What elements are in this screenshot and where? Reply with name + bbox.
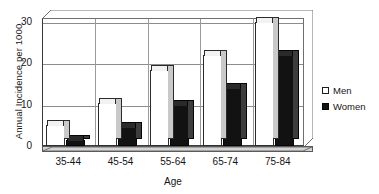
x-axis-title: Age — [42, 176, 304, 187]
y-tick-label: 0 — [10, 141, 32, 151]
bar-group — [147, 18, 199, 146]
bar-side-face — [273, 17, 279, 139]
legend-swatch-women-icon — [322, 103, 329, 110]
bar-top-face — [47, 120, 64, 126]
y-tick-label: 10 — [10, 100, 32, 110]
bar-group — [94, 18, 146, 146]
bar-top-face — [256, 17, 273, 23]
bar-side-face — [64, 120, 70, 139]
legend-label-men: Men — [333, 85, 351, 96]
x-tick-label: 65-74 — [199, 156, 251, 167]
y-tick-label: 20 — [10, 58, 32, 68]
bar-side-face — [116, 98, 122, 139]
bar-side-face — [84, 135, 90, 139]
chart-legend: Men Women — [322, 85, 378, 117]
bar-men-65-74[interactable] — [203, 55, 222, 146]
legend-swatch-men-icon — [322, 87, 329, 94]
x-tick-label: 75-84 — [252, 156, 304, 167]
bar-men-75-84[interactable] — [255, 22, 274, 146]
x-tick-label: 55-64 — [147, 156, 199, 167]
bar-side-face — [221, 50, 227, 139]
bar-men-45-54[interactable] — [98, 103, 117, 146]
bar-side-face — [293, 50, 299, 139]
bar-top-face — [99, 98, 116, 104]
bar-side-face — [188, 100, 194, 139]
plot-depth-right-edge — [304, 10, 313, 147]
bar-men-55-64[interactable] — [150, 70, 169, 146]
bar-side-face — [168, 65, 174, 139]
legend-label-women: Women — [333, 101, 366, 112]
y-tick-label: 30 — [10, 17, 32, 27]
bar-side-face — [241, 83, 247, 139]
bar-group — [42, 18, 94, 146]
y-axis-tick-labels: 30 20 10 0 — [10, 0, 32, 194]
x-tick-label: 35-44 — [42, 156, 94, 167]
plot-floor-band — [42, 146, 313, 152]
bar-side-face — [136, 122, 142, 139]
bar-top-face — [204, 50, 221, 56]
bar-group — [199, 18, 251, 146]
bar-men-35-44[interactable] — [46, 125, 65, 146]
bars-layer — [42, 18, 304, 146]
legend-item-women[interactable]: Women — [322, 101, 378, 112]
bar-chart: Annual Incidence per 1000 30 20 10 0 35-… — [0, 0, 379, 194]
bar-women-35-44[interactable] — [66, 140, 85, 146]
legend-item-men[interactable]: Men — [322, 85, 378, 96]
bar-group — [252, 18, 304, 146]
x-tick-label: 45-54 — [94, 156, 146, 167]
bar-top-face — [151, 65, 168, 71]
